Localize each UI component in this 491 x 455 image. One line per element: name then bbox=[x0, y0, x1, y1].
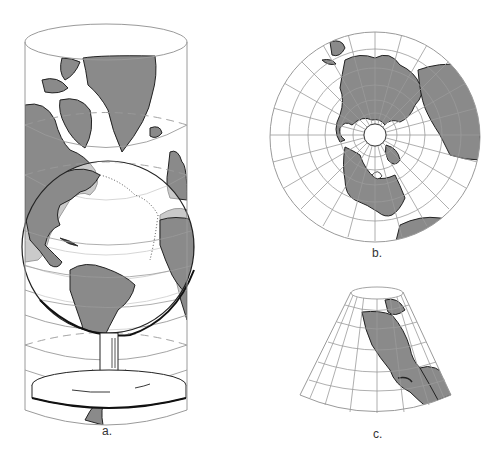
panel-c-conic bbox=[300, 287, 451, 413]
panel-b-label: b. bbox=[372, 246, 382, 260]
map-projections-figure bbox=[0, 0, 491, 455]
panel-a-label: a. bbox=[102, 424, 112, 438]
globe-stand bbox=[32, 333, 186, 408]
panel-a-cylindrical bbox=[22, 24, 194, 425]
panel-b-azimuthal bbox=[269, 30, 481, 245]
panel-c-label: c. bbox=[373, 427, 382, 441]
